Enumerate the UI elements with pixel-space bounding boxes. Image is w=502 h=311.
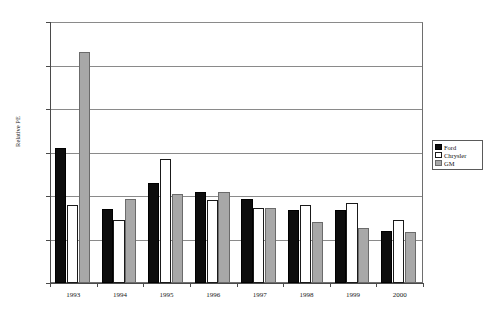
- bar-chrysler-1997: [253, 208, 264, 283]
- bar-chrysler-1995: [160, 159, 171, 283]
- bar-ford-1995: [148, 183, 159, 283]
- bar-chrysler-1993: [67, 205, 78, 283]
- x-axis-label-1996: 1996: [190, 291, 237, 299]
- legend-swatch-ford-icon: [435, 144, 442, 150]
- x-axis-label-1994: 1994: [97, 291, 144, 299]
- bar-chrysler-1998: [300, 205, 311, 283]
- x-axis-label-1995: 1995: [143, 291, 190, 299]
- y-axis-title: Relative PE: [14, 97, 21, 167]
- x-axis-tick-mark: [143, 283, 144, 287]
- x-axis-tick-mark: [283, 283, 284, 287]
- legend-swatch-gm-icon: [435, 160, 442, 166]
- bar-ford-1997: [241, 199, 252, 283]
- x-axis-tick-mark: [423, 283, 424, 287]
- x-axis-tick-mark: [97, 283, 98, 287]
- bar-gm-1998: [312, 222, 323, 283]
- relative-pe-bar-chart: 0.000.200.400.600.801.001.20 Relative PE…: [0, 0, 502, 311]
- legend-label-chrysler: Chrysler: [444, 152, 466, 159]
- bar-gm-1995: [172, 194, 183, 283]
- legend-label-ford: Ford: [444, 144, 456, 151]
- legend-item-chrysler: Chrysler: [435, 151, 480, 159]
- x-axis-ticks: 19931994199519961997199819992000: [50, 283, 423, 309]
- bar-ford-1996: [195, 192, 206, 283]
- x-axis-tick-mark: [376, 283, 377, 287]
- x-axis-label-1993: 1993: [50, 291, 97, 299]
- bar-chrysler-1999: [346, 203, 357, 283]
- bar-gm-1997: [265, 208, 276, 283]
- bar-chrysler-2000: [393, 220, 404, 283]
- chart-legend: Ford Chrysler GM: [432, 140, 483, 170]
- bar-ford-1993: [55, 148, 66, 283]
- bar-gm-1996: [218, 192, 229, 283]
- x-axis-label-1997: 1997: [237, 291, 284, 299]
- x-axis-label-1998: 1998: [283, 291, 330, 299]
- x-axis-tick-mark: [190, 283, 191, 287]
- bar-series-layer: [50, 22, 423, 283]
- x-axis-label-1999: 1999: [330, 291, 377, 299]
- x-axis-tick-mark: [330, 283, 331, 287]
- legend-item-gm: GM: [435, 159, 480, 167]
- bar-chrysler-1994: [113, 220, 124, 283]
- x-axis-tick-mark: [237, 283, 238, 287]
- x-axis-label-2000: 2000: [376, 291, 423, 299]
- legend-swatch-chrysler-icon: [435, 152, 442, 158]
- legend-label-gm: GM: [444, 160, 454, 167]
- bar-ford-1998: [288, 210, 299, 283]
- bar-gm-1994: [125, 199, 136, 283]
- bar-chrysler-1996: [207, 200, 218, 283]
- bar-gm-2000: [405, 232, 416, 283]
- bar-ford-1999: [335, 210, 346, 283]
- bar-ford-1994: [102, 209, 113, 283]
- bar-gm-1993: [79, 52, 90, 283]
- x-axis-tick-mark: [50, 283, 51, 287]
- y-axis-ticks: 0.000.200.400.600.801.001.20: [0, 0, 50, 311]
- legend-item-ford: Ford: [435, 143, 480, 151]
- bar-gm-1999: [358, 228, 369, 283]
- bar-ford-2000: [381, 231, 392, 283]
